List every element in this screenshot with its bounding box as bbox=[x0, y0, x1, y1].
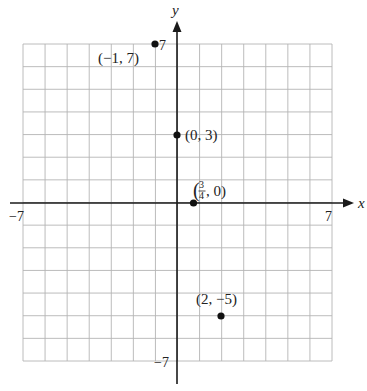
label-rest: , 0) bbox=[206, 183, 226, 200]
coordinate-plane: x y −7 7 7 −7 (−1, 7) (0, 3) ( 3 4 , 0) … bbox=[0, 0, 367, 391]
point-label-2-neg5: (2, −5) bbox=[196, 291, 237, 308]
point-label-0-3: (0, 3) bbox=[185, 127, 218, 144]
point-neg1-7 bbox=[151, 40, 158, 47]
y-axis-arrow-icon bbox=[173, 21, 182, 32]
tick-label-y-min: −7 bbox=[154, 355, 169, 370]
axes bbox=[10, 21, 354, 384]
point-label-neg1-7: (−1, 7) bbox=[98, 50, 139, 67]
y-axis-label: y bbox=[170, 2, 179, 18]
tick-label-y-max: 7 bbox=[159, 38, 166, 53]
point-0-3 bbox=[173, 131, 180, 138]
fraction-denominator: 4 bbox=[199, 190, 204, 201]
x-axis-arrow-icon bbox=[343, 199, 354, 208]
point-label-3over4-0: ( 3 4 , 0) bbox=[193, 179, 226, 202]
point-2-neg5 bbox=[217, 312, 224, 319]
fraction-numerator: 3 bbox=[199, 179, 204, 190]
tick-label-x-min: −7 bbox=[9, 209, 24, 224]
tick-label-x-max: 7 bbox=[325, 209, 332, 224]
x-axis-label: x bbox=[357, 195, 365, 211]
